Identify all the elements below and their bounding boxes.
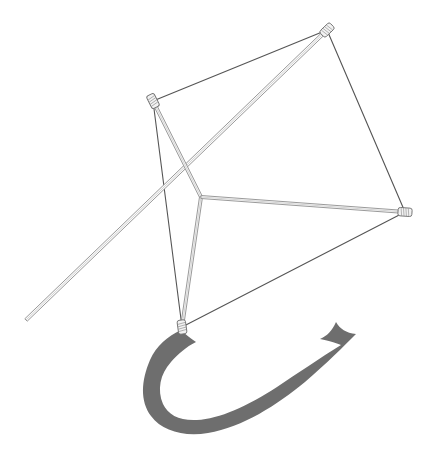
sail-edge-top-right [327, 30, 405, 212]
kite-tail-ribbon [143, 322, 356, 434]
kite-tail-group [143, 322, 356, 434]
lashing-right-body [398, 207, 413, 216]
lashing-bottom [177, 319, 187, 334]
lashing-left [146, 93, 160, 109]
spar-long-diagonal-highlight [26, 30, 327, 320]
sail-edge-bottom-right [182, 212, 405, 327]
spar-cross-right-highlight [201, 197, 405, 212]
lashing-left-body [146, 93, 160, 109]
kite-illustration [0, 0, 430, 459]
lashing-right [398, 207, 413, 216]
kite-drawing-svg [0, 0, 430, 459]
sail-edge-bottom-left [153, 101, 182, 327]
kite-spars [25, 29, 405, 327]
sail-edge-top-left [153, 30, 327, 101]
spar-cross-bottom-highlight [182, 197, 201, 327]
spar-cross-left-highlight [153, 101, 201, 197]
